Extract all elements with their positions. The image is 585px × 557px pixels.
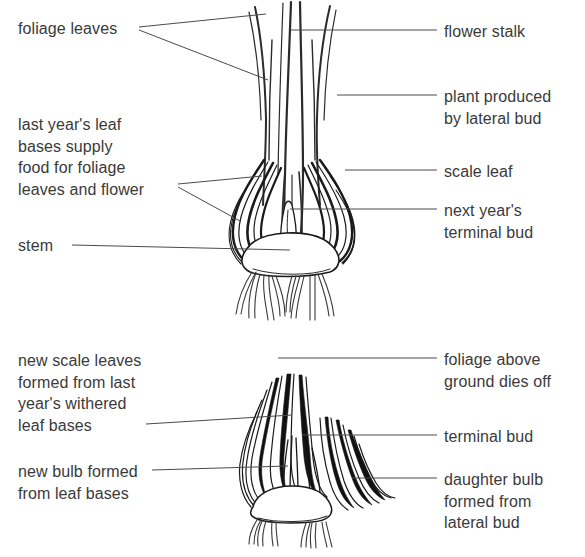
label-scale-leaf: scale leaf xyxy=(444,161,513,183)
leader-leaf-bases-b xyxy=(178,187,240,221)
label-stem: stem xyxy=(18,235,53,257)
label-last-years-leaf-bases: last year's leaf bases supply food for f… xyxy=(18,114,144,200)
flower-stalk-shape xyxy=(278,2,303,232)
label-plant-produced-by-lateral-bud: plant produced by lateral bud xyxy=(444,86,551,129)
daughter-bulb-scales xyxy=(320,417,395,510)
leader-new-bulb-formed xyxy=(152,466,288,470)
bulb-diagram: foliage leaves last year's leaf bases su… xyxy=(0,0,585,557)
leader-foliage-leaves-b xyxy=(139,30,268,80)
label-flower-stalk: flower stalk xyxy=(444,21,525,43)
terminal-bud-shape-bottom xyxy=(284,436,320,492)
leader-foliage-leaves-a xyxy=(139,14,266,27)
roots-bottom xyxy=(249,520,332,548)
label-new-scale-leaves: new scale leaves formed from last year's… xyxy=(18,350,141,436)
label-terminal-bud: terminal bud xyxy=(444,426,533,448)
leader-new-scale-leaves xyxy=(146,415,292,424)
stem-basal-plate-top xyxy=(242,233,339,277)
roots-top xyxy=(236,272,334,320)
bottom-bulb-drawing xyxy=(239,374,395,548)
label-foliage-leaves: foliage leaves xyxy=(18,18,117,40)
label-daughter-bulb: daughter bulb formed from lateral bud xyxy=(444,469,543,534)
label-new-bulb-formed: new bulb formed from leaf bases xyxy=(18,461,138,504)
label-next-years-terminal-bud: next year's terminal bud xyxy=(444,200,533,243)
top-bulb-drawing xyxy=(229,2,355,320)
label-foliage-above-ground-dies-off: foliage above ground dies off xyxy=(444,349,551,392)
